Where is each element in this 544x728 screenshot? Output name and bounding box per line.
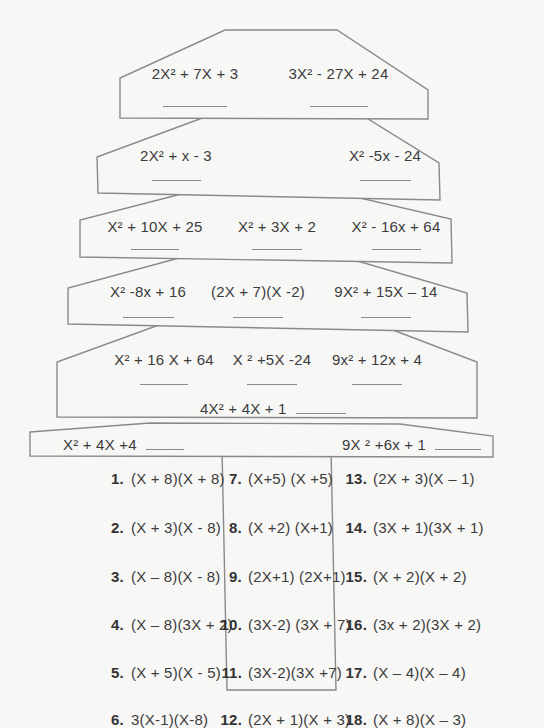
item-number: 17. [338,664,367,681]
item-expression: (X+5) (X +5) [248,470,333,487]
item-expression: (2X + 1)(X + 3) [248,711,350,728]
item-number: 12. [212,711,242,728]
answer-blank [247,384,297,385]
tier3-expression-1: X² + 10X + 25 [90,217,220,250]
item-number: 10. [212,616,242,633]
expression: 9X² + 15X – 14 [334,283,437,300]
tier3-expression-3: X² - 16x + 64 [331,217,461,250]
answer-blank [140,384,188,385]
expression: 9X ² +6x + 1 [342,436,426,453]
item-expression: (X – 8)(X - 8) [131,568,220,585]
answer-blank [435,438,481,450]
item-number: 8. [215,519,242,536]
item-number: 2. [100,519,124,536]
answer-item: 10. (3X-2) (3X + 7) [212,616,351,633]
tier1-expression-2: 3X² - 27X + 24 [271,64,406,107]
item-number: 16. [338,616,367,633]
item-expression: (X + 3)(X - 8) [131,519,221,536]
item-number: 5. [100,664,124,681]
tier3-expression-2: X² + 3X + 2 [212,217,342,250]
item-expression: 3(X-1)(X-8) [131,711,208,728]
answer-blank [123,317,174,318]
answer-item: 18. (X + 8)(X – 3) [338,711,466,728]
tier4-expression-2: (2X + 7)(X -2) [193,282,323,318]
answer-blank [310,106,368,107]
answer-item: 8. (X +2) (X+1) [215,519,333,536]
item-expression: (X + 2)(X + 2) [373,568,467,585]
expression: (2X + 7)(X -2) [211,283,305,300]
tier6-expression-1: X² + 4X +4 [63,435,184,454]
item-expression: (3X-2)(3X +7) [248,664,342,681]
answer-item: 12. (2X + 1)(X + 3) [212,711,350,728]
answer-item: 6. 3(X-1)(X-8) [100,711,208,728]
answer-item: 17. (X – 4)(X – 4) [338,664,466,681]
item-expression: (X + 8)(X + 8) [131,470,225,487]
expression: X² -5x - 24 [349,147,421,164]
item-expression: (2X+1) (2X+1) [248,568,346,585]
item-number: 9. [215,568,242,585]
item-expression: (X + 8)(X – 3) [373,711,466,728]
answer-blank [131,249,179,250]
worksheet-page: 2X² + 7X + 3 3X² - 27X + 24 2X² + x - 3 … [0,0,544,728]
answer-item: 5. (X + 5)(X - 5) [100,664,221,681]
answer-blank [163,106,227,107]
answer-item: 14. (3X + 1)(3X + 1) [338,519,484,536]
tier2-expression-1: 2X² + x - 3 [111,146,241,181]
expression: 3X² - 27X + 24 [289,65,389,82]
item-number: 6. [100,711,124,728]
item-expression: (X +2) (X+1) [248,519,333,536]
answer-blank [361,317,411,318]
expression: X² - 16x + 64 [352,218,441,235]
tier1-expression-1: 2X² + 7X + 3 [130,64,260,107]
expression: X² + 3X + 2 [238,218,316,235]
expression: 2X² + 7X + 3 [152,65,239,82]
expression: X² + 10X + 25 [107,218,202,235]
item-expression: (2X + 3)(X – 1) [373,470,475,487]
answer-blank [233,317,283,318]
item-number: 15. [338,568,367,585]
answer-item: 2. (X + 3)(X - 8) [100,519,221,536]
tier5-expression-4: 4X² + 4X + 1 [200,399,346,418]
answer-blank [296,402,346,414]
answer-blank [146,438,184,450]
item-expression: (3X-2) (3X + 7) [248,616,351,633]
tier2-expression-2: X² -5x - 24 [320,146,450,181]
answer-blank [360,180,411,181]
item-number: 14. [338,519,367,536]
answer-blank [152,180,201,181]
item-expression: (X + 5)(X - 5) [131,664,221,681]
item-number: 11. [212,664,242,681]
expression: X ² +5X -24 [233,351,312,368]
answer-item: 1. (X + 8)(X + 8) [100,470,225,487]
item-number: 13. [338,470,367,487]
tier6-expression-2: 9X ² +6x + 1 [342,435,481,454]
item-number: 7. [215,470,242,487]
item-number: 4. [100,616,124,633]
tier4-expression-3: 9X² + 15X – 14 [321,282,451,318]
answer-item: 16. (3x + 2)(3X + 2) [338,616,481,633]
answer-blank [252,249,302,250]
expression: 4X² + 4X + 1 [200,400,287,417]
item-expression: (3x + 2)(3X + 2) [373,616,481,633]
expression: 2X² + x - 3 [140,147,212,164]
tier5-expression-3: 9x² + 12x + 4 [312,350,442,385]
answer-item: 9. (2X+1) (2X+1) [215,568,346,585]
answer-item: 11. (3X-2)(3X +7) [212,664,342,681]
expression: X² + 16 X + 64 [114,351,214,368]
item-expression: (X – 4)(X – 4) [373,664,466,681]
item-number: 18. [338,711,367,728]
expression: 9x² + 12x + 4 [332,351,422,368]
expression: X² -8x + 16 [110,283,186,300]
answer-blank [372,249,421,250]
item-number: 3. [100,568,124,585]
answer-item: 15. (X + 2)(X + 2) [338,568,467,585]
item-number: 1. [100,470,124,487]
expression: X² + 4X +4 [63,436,137,453]
item-expression: (3X + 1)(3X + 1) [373,519,484,536]
answer-item: 3. (X – 8)(X - 8) [100,568,220,585]
answer-item: 7. (X+5) (X +5) [215,470,333,487]
answer-blank [352,384,402,385]
answer-item: 13. (2X + 3)(X – 1) [338,470,475,487]
